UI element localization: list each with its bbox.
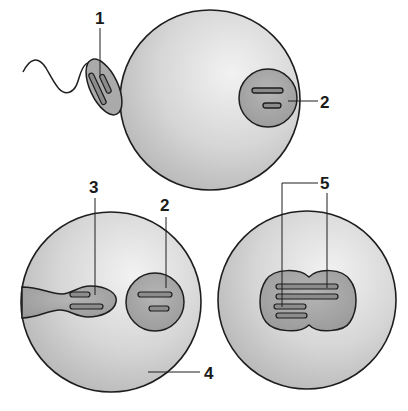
chromosome — [274, 304, 306, 309]
chromosome — [149, 306, 169, 311]
panel-sperm-contact: 1 2 — [23, 9, 329, 190]
chromosome — [276, 294, 338, 299]
label-3: 3 — [89, 178, 98, 197]
panel-pronuclei: 3 2 4 — [21, 178, 214, 392]
label-4: 4 — [204, 364, 214, 383]
chromosome — [263, 103, 281, 108]
label-1: 1 — [95, 9, 104, 28]
chromosome — [70, 292, 90, 297]
label-5: 5 — [320, 174, 329, 193]
label-2-bottom: 2 — [160, 196, 169, 215]
chromosome — [276, 284, 338, 289]
panel-zygote-fusion: 5 — [218, 174, 396, 389]
chromosome — [70, 304, 103, 309]
fused-nucleus — [260, 271, 356, 331]
label-2-top: 2 — [320, 93, 329, 112]
female-pronucleus — [126, 273, 184, 331]
chromosome — [138, 292, 172, 297]
chromosome — [252, 88, 283, 93]
fertilization-diagram: 1 2 3 2 4 5 — [0, 0, 408, 411]
chromosome — [276, 313, 307, 318]
egg-nucleus — [239, 69, 297, 127]
